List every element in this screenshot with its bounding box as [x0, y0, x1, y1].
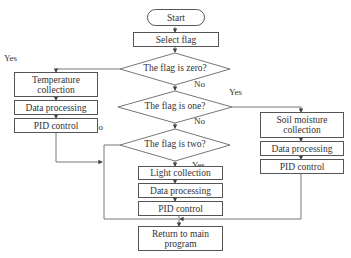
edge-label-zero-yes: Yes — [4, 53, 17, 63]
select-flag-box: Select flag — [133, 32, 219, 47]
edge-label-one-no: No — [194, 116, 205, 126]
decision-flag-zero: The flag is zero? — [130, 63, 220, 73]
return-to-main-program-box: Return to main program — [138, 226, 223, 251]
edge-label-one-yes: Yes — [229, 87, 242, 97]
light-collection-box: Light collection — [138, 166, 223, 180]
decision-flag-one: The flag is one? — [130, 101, 220, 111]
start-terminal: Start — [147, 9, 205, 26]
left-pid-control-box: PID control — [14, 118, 98, 133]
decision-flag-two: The flag is two? — [130, 139, 220, 149]
middle-data-processing-box: Data processing — [138, 183, 223, 198]
temperature-collection-box: Temperature collection — [14, 72, 98, 97]
soil-moisture-collection-box: Soil moisture collection — [260, 112, 344, 138]
right-data-processing-box: Data processing — [260, 141, 344, 156]
edge-label-zero-no: No — [194, 79, 205, 89]
right-pid-control-box: PID control — [260, 159, 344, 174]
left-data-processing-box: Data processing — [14, 100, 98, 115]
middle-pid-control-box: PID control — [138, 201, 223, 216]
